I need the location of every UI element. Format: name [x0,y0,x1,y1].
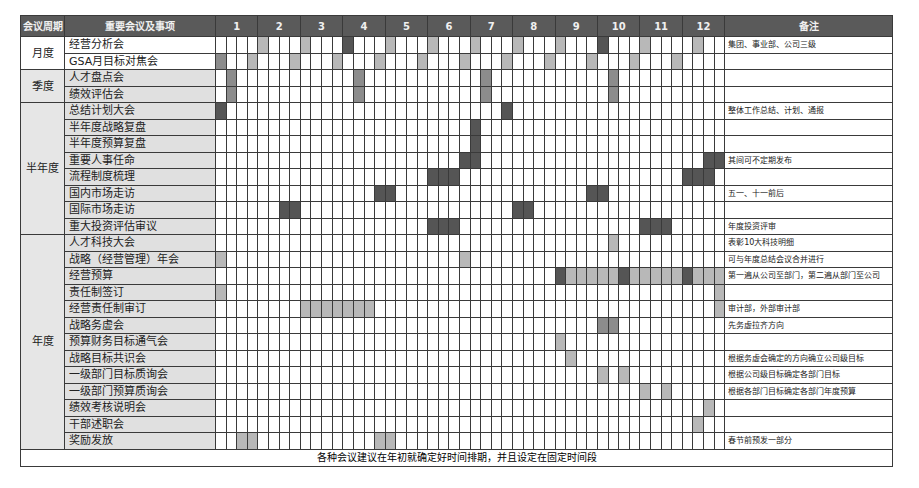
week-cell[interactable] [587,317,598,334]
week-cell[interactable] [555,284,566,301]
week-cell[interactable] [587,301,598,318]
week-cell[interactable] [375,119,386,136]
week-cell[interactable] [640,317,651,334]
week-cell[interactable] [406,103,417,120]
week-cell[interactable] [353,334,364,351]
week-cell[interactable] [396,86,407,103]
week-cell[interactable] [237,301,248,318]
week-cell[interactable] [491,37,502,54]
week-cell[interactable] [290,169,301,186]
week-cell[interactable] [396,103,407,120]
week-cell[interactable] [481,433,492,450]
week-cell[interactable] [353,268,364,285]
week-cell[interactable] [682,53,693,70]
week-cell[interactable] [460,136,471,153]
week-cell[interactable] [396,317,407,334]
week-cell[interactable] [322,103,333,120]
week-cell[interactable] [523,317,534,334]
week-cell[interactable] [364,169,375,186]
week-cell[interactable] [555,86,566,103]
week-cell[interactable] [385,218,396,235]
week-cell[interactable] [640,103,651,120]
week-cell[interactable] [714,86,725,103]
week-cell[interactable] [269,433,280,450]
week-cell[interactable] [640,251,651,268]
week-cell[interactable] [661,334,672,351]
week-cell[interactable] [406,367,417,384]
scheduled-week-cell[interactable] [629,53,640,70]
week-cell[interactable] [460,317,471,334]
week-cell[interactable] [322,235,333,252]
week-cell[interactable] [311,202,322,219]
week-cell[interactable] [597,70,608,87]
week-cell[interactable] [523,86,534,103]
week-cell[interactable] [460,350,471,367]
scheduled-week-cell[interactable] [714,301,725,318]
week-cell[interactable] [513,152,524,169]
week-cell[interactable] [619,334,630,351]
scheduled-week-cell[interactable] [502,53,513,70]
week-cell[interactable] [269,317,280,334]
week-cell[interactable] [629,136,640,153]
week-cell[interactable] [661,433,672,450]
scheduled-week-cell[interactable] [566,350,577,367]
week-cell[interactable] [290,136,301,153]
week-cell[interactable] [438,284,449,301]
week-cell[interactable] [300,367,311,384]
week-cell[interactable] [237,317,248,334]
week-cell[interactable] [587,383,598,400]
week-cell[interactable] [544,86,555,103]
week-cell[interactable] [544,416,555,433]
week-cell[interactable] [661,53,672,70]
scheduled-week-cell[interactable] [714,152,725,169]
week-cell[interactable] [608,350,619,367]
week-cell[interactable] [300,119,311,136]
week-cell[interactable] [661,301,672,318]
week-cell[interactable] [523,37,534,54]
week-cell[interactable] [608,152,619,169]
week-cell[interactable] [523,383,534,400]
week-cell[interactable] [226,152,237,169]
week-cell[interactable] [534,235,545,252]
week-cell[interactable] [597,136,608,153]
week-cell[interactable] [523,268,534,285]
week-cell[interactable] [247,334,258,351]
week-cell[interactable] [693,350,704,367]
week-cell[interactable] [311,136,322,153]
scheduled-week-cell[interactable] [629,268,640,285]
week-cell[interactable] [481,136,492,153]
scheduled-week-cell[interactable] [640,37,651,54]
week-cell[interactable] [364,268,375,285]
week-cell[interactable] [640,334,651,351]
scheduled-week-cell[interactable] [587,268,598,285]
week-cell[interactable] [300,86,311,103]
week-cell[interactable] [661,416,672,433]
week-cell[interactable] [502,268,513,285]
week-cell[interactable] [290,367,301,384]
week-cell[interactable] [608,136,619,153]
week-cell[interactable] [555,301,566,318]
week-cell[interactable] [704,103,715,120]
week-cell[interactable] [216,367,227,384]
week-cell[interactable] [693,317,704,334]
week-cell[interactable] [619,103,630,120]
scheduled-week-cell[interactable] [682,169,693,186]
week-cell[interactable] [576,235,587,252]
week-cell[interactable] [470,251,481,268]
week-cell[interactable] [502,235,513,252]
week-cell[interactable] [237,37,248,54]
week-cell[interactable] [608,251,619,268]
week-cell[interactable] [438,235,449,252]
week-cell[interactable] [544,103,555,120]
week-cell[interactable] [343,53,354,70]
week-cell[interactable] [608,185,619,202]
week-cell[interactable] [491,202,502,219]
week-cell[interactable] [619,70,630,87]
week-cell[interactable] [502,202,513,219]
week-cell[interactable] [566,202,577,219]
week-cell[interactable] [544,317,555,334]
week-cell[interactable] [406,383,417,400]
week-cell[interactable] [576,383,587,400]
week-cell[interactable] [566,86,577,103]
week-cell[interactable] [502,136,513,153]
